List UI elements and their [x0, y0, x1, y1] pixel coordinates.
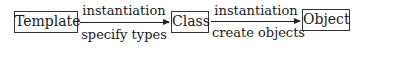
edge-2-bottom-label: create objects — [212, 25, 300, 40]
node-template: Template — [14, 11, 78, 33]
edge-1-top-label: instantiation — [80, 3, 168, 18]
node-class: Class — [171, 11, 209, 33]
node-object: Object — [302, 9, 350, 31]
edge-1-bottom-label: specify types — [80, 27, 168, 42]
arrow-class-to-object — [211, 21, 300, 22]
edge-2-top-label: instantiation — [212, 3, 300, 18]
arrow-template-to-class — [80, 22, 169, 23]
